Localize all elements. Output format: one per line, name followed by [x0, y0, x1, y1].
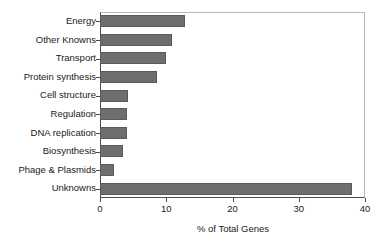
category-tick: [96, 189, 100, 190]
category-label: Cell structure: [0, 86, 96, 105]
value-axis: 010203040: [100, 198, 366, 224]
bar: [100, 52, 166, 64]
bar-row: [100, 49, 166, 68]
category-label: Biosynthesis: [0, 142, 96, 161]
bar: [100, 164, 114, 176]
bar-row: [100, 179, 352, 198]
category-tick: [96, 114, 100, 115]
bar-row: [100, 12, 185, 31]
bar: [100, 127, 127, 139]
x-axis-tick-label: 40: [345, 203, 385, 214]
x-axis-tick-label: 10: [146, 203, 186, 214]
bar: [100, 90, 128, 102]
bar: [100, 15, 185, 27]
category-label: Other Knowns: [0, 31, 96, 50]
category-label: Protein synthesis: [0, 68, 96, 87]
bar: [100, 183, 352, 195]
category-tick: [96, 59, 100, 60]
x-axis-tick: [365, 198, 366, 202]
x-axis-tick-label: 30: [279, 203, 319, 214]
x-axis-tick: [100, 198, 101, 202]
category-tick: [96, 21, 100, 22]
category-tick: [96, 170, 100, 171]
bar-row: [100, 31, 172, 50]
category-axis: EnergyOther KnownsTransportProtein synth…: [0, 12, 96, 198]
bar: [100, 34, 172, 46]
category-tick: [96, 133, 100, 134]
category-label: Energy: [0, 12, 96, 31]
bars-layer: [100, 12, 365, 198]
category-tick: [96, 77, 100, 78]
category-label: DNA replication: [0, 124, 96, 143]
x-axis-tick: [166, 198, 167, 202]
bar: [100, 71, 157, 83]
bar-row: [100, 124, 127, 143]
category-label: Phage & Plasmids: [0, 161, 96, 180]
category-tick: [96, 152, 100, 153]
x-axis-title: % of Total Genes: [100, 223, 366, 234]
category-label: Transport: [0, 49, 96, 68]
bar-chart: EnergyOther KnownsTransportProtein synth…: [0, 0, 392, 246]
category-label: Unknowns: [0, 179, 96, 198]
category-tick: [96, 40, 100, 41]
bar-row: [100, 105, 127, 124]
bar-row: [100, 142, 123, 161]
bar-row: [100, 86, 128, 105]
category-tick: [96, 96, 100, 97]
x-axis-tick: [299, 198, 300, 202]
bar: [100, 108, 127, 120]
category-label: Regulation: [0, 105, 96, 124]
x-axis-tick-label: 0: [80, 203, 120, 214]
bar: [100, 145, 123, 157]
x-axis-tick-label: 20: [213, 203, 253, 214]
x-axis-tick: [233, 198, 234, 202]
bar-row: [100, 68, 157, 87]
bar-row: [100, 161, 114, 180]
